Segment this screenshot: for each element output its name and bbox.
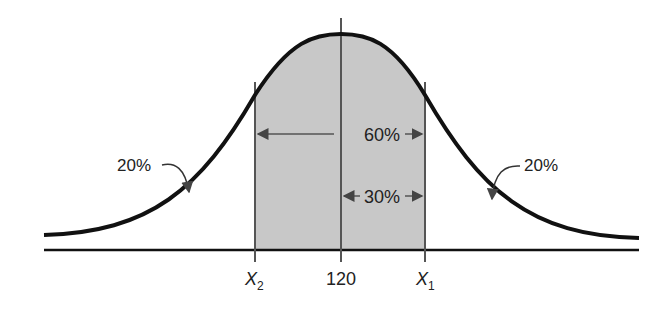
center-region-label: 60%	[364, 125, 400, 145]
half-region-label: 30%	[364, 187, 400, 207]
x1-label: X1	[415, 269, 435, 293]
x2-label: X2	[244, 269, 264, 293]
mean-label: 120	[326, 269, 356, 289]
right-tail-label: 20%	[524, 156, 558, 175]
right-tail-arrow	[492, 166, 520, 199]
left-tail-label: 20%	[117, 156, 151, 175]
normal-curve-diagram: 60% 30% 20% 20% X2 120 X1	[0, 0, 669, 310]
